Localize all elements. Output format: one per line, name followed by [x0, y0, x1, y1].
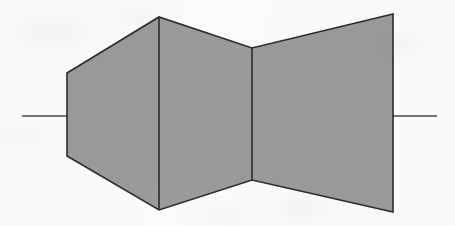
converging-inlet-section: [67, 17, 159, 210]
throat-section: [159, 17, 252, 210]
diagram-canvas: [0, 0, 455, 226]
nozzle-cross-section-figure: [0, 0, 455, 226]
